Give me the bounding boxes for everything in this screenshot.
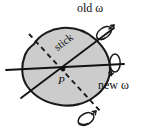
old-omega-label: old ω — [77, 2, 103, 14]
old-omega-rotation-arrow — [94, 24, 114, 42]
point-p-marker — [61, 67, 66, 72]
point-p-label: P — [58, 75, 65, 86]
new-omega-label: new ω — [98, 79, 129, 91]
figure-canvas — [0, 0, 144, 132]
physics-figure: old ω new ω stick P — [0, 0, 144, 132]
dashed-axis-rotation-arrow — [76, 110, 96, 128]
